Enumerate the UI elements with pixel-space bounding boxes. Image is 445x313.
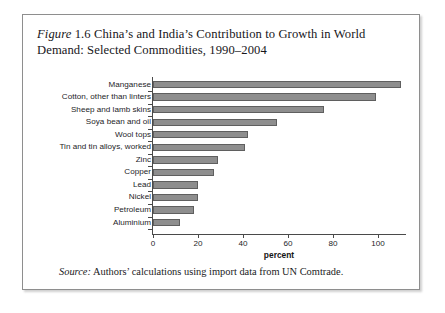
bar	[153, 81, 401, 88]
bar-row: Tin and tin alloys, worked	[23, 141, 421, 154]
bar-row: Soya bean and oil	[23, 116, 421, 129]
x-axis-line	[152, 234, 406, 235]
bar-chart-plot: ManganeseCotton, other than lintersSheep…	[23, 77, 421, 237]
y-axis-tick	[148, 204, 152, 205]
bar-category-label: Tin and tin alloys, worked	[29, 141, 151, 154]
bar-track	[153, 156, 218, 163]
bar-category-label: Aluminium	[29, 217, 151, 230]
bar-row: Petroleum	[23, 204, 421, 217]
bar-row: Aluminium	[23, 217, 421, 230]
y-axis-tick	[148, 154, 152, 155]
bar-track	[153, 119, 277, 126]
x-axis-title: percent	[152, 250, 406, 260]
bar-row: Manganese	[23, 79, 421, 92]
bar	[153, 144, 245, 151]
source-label: Source:	[59, 266, 91, 277]
bar-category-label: Zinc	[29, 154, 151, 167]
bar-track	[153, 219, 180, 226]
x-axis-tick-label: 0	[151, 239, 156, 249]
x-axis-tick	[378, 234, 379, 238]
bar-track	[153, 81, 401, 88]
figure-label: Figure	[37, 27, 71, 41]
y-axis-tick	[148, 179, 152, 180]
bar-row: Sheep and lamb skins	[23, 104, 421, 117]
bar-track	[153, 106, 324, 113]
x-axis-tick-label: 100	[371, 239, 385, 249]
y-axis-tick	[148, 104, 152, 105]
x-axis-tick	[288, 234, 289, 238]
bar-track	[153, 93, 376, 100]
figure-title: Figure 1.6 China’s and India’s Contribut…	[37, 27, 397, 58]
chart-area: ManganeseCotton, other than lintersSheep…	[23, 77, 421, 255]
bar-row: Zinc	[23, 154, 421, 167]
x-axis-tick-label: 60	[283, 239, 292, 249]
x-axis-tick-label: 20	[193, 239, 202, 249]
bar-category-label: Petroleum	[29, 204, 151, 217]
bar-track	[153, 144, 245, 151]
bar-category-label: Manganese	[29, 79, 151, 92]
bar-category-label: Sheep and lamb skins	[29, 104, 151, 117]
bar-track	[153, 194, 198, 201]
bar-category-label: Wool tops	[29, 129, 151, 142]
bar-track	[153, 131, 248, 138]
x-axis-tick	[198, 234, 199, 238]
y-axis-tick	[148, 141, 152, 142]
y-axis-tick	[148, 116, 152, 117]
bar-row: Nickel	[23, 191, 421, 204]
figure-frame: Figure 1.6 China’s and India’s Contribut…	[22, 14, 420, 290]
bar	[153, 106, 324, 113]
bar-category-label: Nickel	[29, 191, 151, 204]
x-axis-tick	[333, 234, 334, 238]
y-axis-tick	[148, 166, 152, 167]
x-axis-tick	[243, 234, 244, 238]
x-axis-tick	[153, 234, 154, 238]
bar-row: Copper	[23, 166, 421, 179]
y-axis-tick	[148, 217, 152, 218]
source-text: Authors’ calculations using import data …	[93, 266, 343, 277]
bar	[153, 194, 198, 201]
bar	[153, 219, 180, 226]
bar-row: Lead	[23, 179, 421, 192]
bar-track	[153, 169, 214, 176]
y-axis-tick	[148, 129, 152, 130]
bar-row: Wool tops	[23, 129, 421, 142]
bar	[153, 169, 214, 176]
y-axis-tick	[148, 191, 152, 192]
bar	[153, 181, 198, 188]
bar	[153, 119, 277, 126]
bar	[153, 156, 218, 163]
x-axis-tick-label: 40	[238, 239, 247, 249]
y-axis-tick	[148, 91, 152, 92]
bar-row: Cotton, other than linters	[23, 91, 421, 104]
bar	[153, 206, 194, 213]
bar-category-label: Soya bean and oil	[29, 116, 151, 129]
bar	[153, 93, 376, 100]
bar	[153, 131, 248, 138]
bar-category-label: Lead	[29, 179, 151, 192]
bar-track	[153, 206, 194, 213]
bar-track	[153, 181, 198, 188]
figure-source: Source: Authors’ calculations using impo…	[59, 265, 399, 278]
y-axis-tick	[148, 229, 152, 230]
bar-category-label: Copper	[29, 166, 151, 179]
x-axis-tick-label: 80	[328, 239, 337, 249]
bar-category-label: Cotton, other than linters	[29, 91, 151, 104]
figure-number: 1.6	[75, 27, 91, 41]
